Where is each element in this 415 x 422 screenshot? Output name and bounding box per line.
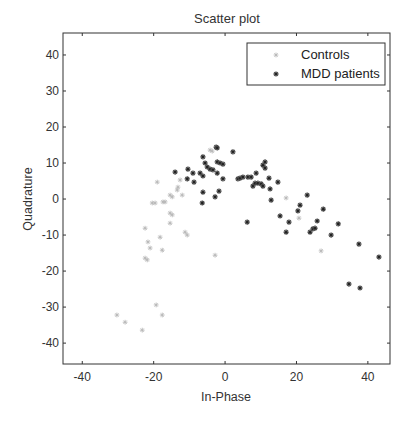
data-point <box>170 194 175 199</box>
data-point <box>180 193 185 198</box>
y-tick-label: -10 <box>42 228 60 242</box>
data-point <box>297 216 302 221</box>
y-tick-label: 20 <box>46 120 60 134</box>
y-tick-label: 10 <box>46 156 60 170</box>
data-point <box>245 219 250 224</box>
data-point <box>284 230 289 235</box>
data-point <box>168 221 173 226</box>
data-point <box>185 167 190 172</box>
data-point <box>146 240 151 245</box>
data-point <box>215 171 220 176</box>
data-point <box>123 320 128 325</box>
y-tick-label: 40 <box>46 48 60 62</box>
data-point <box>315 218 320 223</box>
y-axis-label: Quadrature <box>21 167 35 230</box>
data-point <box>230 149 235 154</box>
data-point <box>240 174 245 179</box>
data-point <box>356 241 361 246</box>
data-point <box>312 226 317 231</box>
data-point <box>154 303 159 308</box>
data-point <box>212 194 217 199</box>
data-point <box>254 171 259 176</box>
data-point <box>267 186 272 191</box>
x-tick-label: 20 <box>290 370 304 384</box>
data-point <box>183 230 188 235</box>
data-point <box>262 159 267 164</box>
data-point <box>172 169 177 174</box>
data-point <box>200 173 205 178</box>
chart-title: Scatter plot <box>194 11 260 26</box>
data-point <box>266 176 271 181</box>
data-point <box>145 258 150 263</box>
data-point <box>284 196 289 201</box>
data-point <box>319 249 324 254</box>
data-point <box>175 188 180 193</box>
data-point <box>210 149 215 154</box>
data-point <box>336 221 341 226</box>
data-point <box>200 154 205 159</box>
data-point <box>357 285 362 290</box>
data-point <box>376 254 381 259</box>
data-point <box>277 213 282 218</box>
x-axis-ticks: -40-2002040 <box>74 33 375 384</box>
data-point <box>160 313 165 318</box>
controls-marker-icon <box>274 53 279 58</box>
x-tick-label: -20 <box>145 370 163 384</box>
data-point <box>143 226 148 231</box>
data-point <box>220 176 225 181</box>
data-point <box>200 190 205 195</box>
data-point <box>190 171 195 176</box>
x-tick-label: 0 <box>222 370 229 384</box>
legend: Controls MDD patients <box>247 43 385 85</box>
data-point <box>269 198 274 203</box>
data-point <box>328 232 333 237</box>
data-point <box>321 207 326 212</box>
data-point <box>158 235 163 240</box>
y-tick-label: -20 <box>42 264 60 278</box>
data-point <box>155 180 160 185</box>
data-point <box>163 200 168 205</box>
data-point <box>178 178 183 183</box>
data-point <box>200 200 205 205</box>
data-point <box>286 219 291 224</box>
data-point <box>213 253 218 258</box>
data-point <box>260 183 265 188</box>
x-tick-label: -40 <box>74 370 92 384</box>
mdd-marker-icon <box>273 71 278 76</box>
y-tick-label: 0 <box>52 192 59 206</box>
x-tick-label: 40 <box>361 370 375 384</box>
legend-label-controls: Controls <box>301 47 350 62</box>
y-axis-ticks: 403020100-10-20-30-40 <box>42 48 390 350</box>
data-point <box>148 246 153 251</box>
data-point <box>295 208 300 213</box>
data-point <box>191 180 196 185</box>
data-points <box>115 145 382 333</box>
data-point <box>262 165 267 170</box>
data-point <box>185 176 190 181</box>
y-tick-label: -40 <box>42 336 60 350</box>
data-point <box>160 248 165 253</box>
data-point <box>305 192 310 197</box>
legend-label-mdd: MDD patients <box>301 66 380 81</box>
data-point <box>297 203 302 208</box>
data-point <box>273 71 278 76</box>
data-point <box>275 180 280 185</box>
data-point <box>274 53 279 58</box>
data-point <box>215 145 220 150</box>
data-point <box>153 201 158 206</box>
y-tick-label: 30 <box>46 84 60 98</box>
data-point <box>115 313 120 318</box>
data-point <box>346 281 351 286</box>
data-point <box>170 212 175 217</box>
x-axis-label: In-Phase <box>201 390 251 404</box>
data-point <box>140 328 145 333</box>
data-point <box>210 167 215 172</box>
data-point <box>185 233 190 238</box>
y-tick-label: -30 <box>42 300 60 314</box>
scatter-chart: Scatter plot -40-2002040 403020100-10-20… <box>0 0 415 422</box>
data-point <box>216 189 221 194</box>
